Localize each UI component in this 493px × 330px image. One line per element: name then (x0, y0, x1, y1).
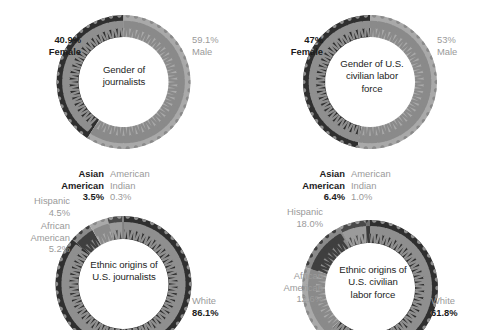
chart-ethnic-journalists: Ethnic origins of U.S. journalists Asian… (0, 160, 247, 330)
donut-ethnic-labor-force (247, 160, 493, 330)
donut-gender-journalists (0, 0, 247, 165)
chart-gender-labor-force: Gender of U.S. civilian labor force 47%F… (247, 0, 493, 165)
chart-ethnic-labor-force: Ethnic origins of U.S. civilian labor fo… (247, 160, 493, 330)
chart-gender-journalists: Gender of journalists 40.9%Female 59.1%M… (0, 0, 247, 165)
donut-ethnic-journalists (0, 160, 247, 330)
figure-canvas: Gender of journalists 40.9%Female 59.1%M… (0, 0, 493, 330)
pictogram-group-female (55, 13, 125, 137)
donut-gender-labor-force (247, 0, 493, 165)
